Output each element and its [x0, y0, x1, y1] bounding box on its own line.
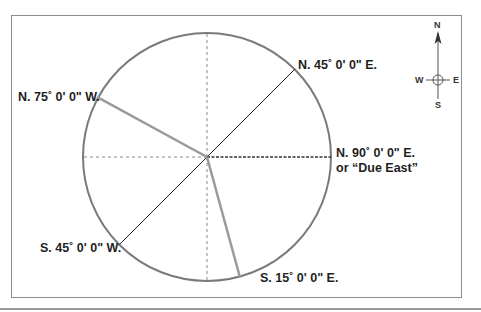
bearing-line-s15e	[207, 157, 240, 278]
compass-south: S	[435, 100, 441, 110]
label-n75w: N. 75˚ 0' 0" W.	[18, 90, 100, 104]
label-s15e: S. 15˚ 0' 0" E.	[260, 271, 338, 285]
label-due-east: or “Due East”	[336, 161, 418, 175]
label-n45e: N. 45˚ 0' 0" E.	[298, 58, 377, 72]
compass-west: W	[415, 75, 424, 85]
compass-rose-icon	[426, 31, 450, 99]
label-n90e: N. 90˚ 0' 0" E.	[336, 146, 415, 160]
bearing-line-n75w	[97, 97, 207, 157]
compass-east: E	[453, 75, 459, 85]
compass-north: N	[434, 20, 441, 30]
bearing-line-s45w	[119, 157, 207, 245]
label-s45w: S. 45˚ 0' 0" W.	[40, 241, 121, 255]
bearing-line-n45e	[207, 69, 295, 157]
